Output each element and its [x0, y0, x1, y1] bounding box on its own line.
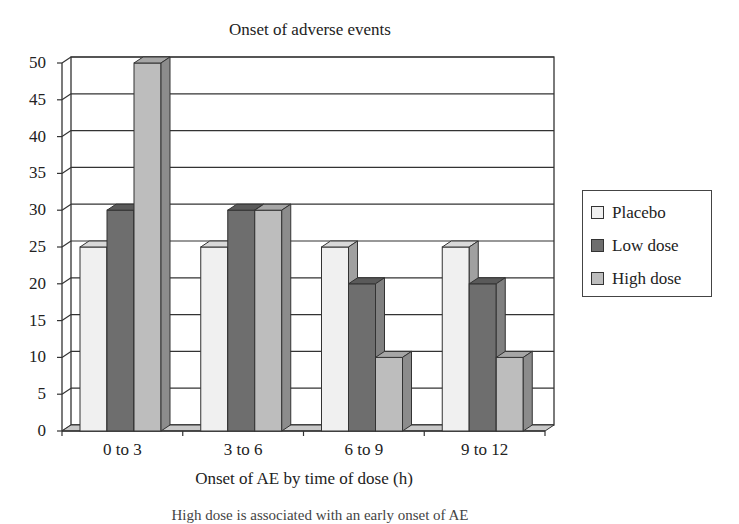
- legend-swatch: [591, 206, 604, 219]
- y-tick: 35: [0, 164, 46, 182]
- y-tick: 30: [0, 201, 46, 219]
- y-tick: 10: [0, 348, 46, 366]
- legend-item-placebo: Placebo: [591, 196, 711, 229]
- legend-item-low-dose: Low dose: [591, 229, 711, 262]
- legend-label: Low dose: [612, 236, 679, 256]
- y-tick: 40: [0, 128, 46, 146]
- figure-caption: High dose is associated with an early on…: [60, 507, 580, 524]
- legend-swatch: [591, 239, 604, 252]
- x-tick: 0 to 3: [62, 440, 182, 460]
- y-tick: 45: [0, 91, 46, 109]
- legend: Placebo Low dose High dose: [582, 190, 712, 297]
- x-axis-label: Onset of AE by time of dose (h): [62, 469, 546, 489]
- y-tick: 0: [0, 422, 46, 440]
- x-tick: 3 to 6: [183, 440, 303, 460]
- legend-item-high-dose: High dose: [591, 262, 711, 295]
- x-tick: 9 to 12: [425, 440, 545, 460]
- x-tick: 6 to 9: [304, 440, 424, 460]
- y-tick: 15: [0, 312, 46, 330]
- y-tick: 5: [0, 385, 46, 403]
- y-tick: 25: [0, 238, 46, 256]
- legend-label: High dose: [612, 269, 681, 289]
- legend-label: Placebo: [612, 203, 666, 223]
- legend-swatch: [591, 272, 604, 285]
- y-tick: 50: [0, 54, 46, 72]
- y-tick: 20: [0, 275, 46, 293]
